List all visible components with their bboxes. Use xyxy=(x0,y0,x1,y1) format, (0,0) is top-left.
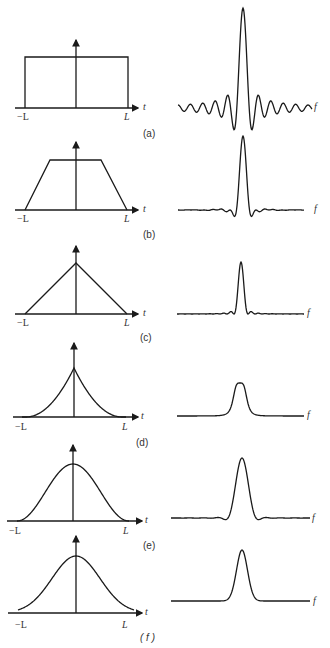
pos-L-label: L xyxy=(123,525,129,536)
panel-a-freq xyxy=(178,8,312,130)
panel-c-freq xyxy=(177,262,304,314)
neg-L-label: −L xyxy=(17,213,29,224)
neg-L-label: −L xyxy=(17,111,29,122)
neg-L-label: −L xyxy=(17,317,29,328)
f-axis-label: f xyxy=(307,409,310,420)
panel-label-b: (b) xyxy=(143,229,155,240)
neg-L-label: −L xyxy=(15,619,27,630)
panel-e-freq xyxy=(171,458,310,520)
t-axis-label: t xyxy=(145,514,148,525)
panel-f-freq xyxy=(171,550,310,601)
panel-c-time xyxy=(15,246,138,314)
t-axis-label: t xyxy=(141,410,144,421)
f-axis-label: f xyxy=(312,512,315,523)
f-axis-label: f xyxy=(314,203,317,214)
panel-f-time xyxy=(8,536,142,613)
panel-d-time xyxy=(13,343,138,417)
panel-e-time xyxy=(7,445,142,521)
panel-label-d: (d) xyxy=(136,437,148,448)
panel-label-c: (c) xyxy=(140,332,152,343)
f-axis-label: f xyxy=(307,307,310,318)
panel-d-freq xyxy=(177,383,304,416)
t-axis-label: t xyxy=(145,606,148,617)
pos-L-label: L xyxy=(124,213,130,224)
neg-L-label: −L xyxy=(9,525,21,536)
panel-a-time xyxy=(15,40,138,108)
pos-L-label: L xyxy=(122,619,128,630)
f-axis-label: f xyxy=(313,595,316,606)
pos-L-label: L xyxy=(124,111,130,122)
panel-b-time xyxy=(15,142,138,210)
panel-label-f: ( f ) xyxy=(140,632,155,643)
f-axis-label: f xyxy=(314,101,317,112)
panel-label-e: (e) xyxy=(143,540,155,551)
panel-label-a: (a) xyxy=(143,128,155,139)
pos-L-label: L xyxy=(124,317,130,328)
t-axis-label: t xyxy=(143,307,146,318)
figure-canvas xyxy=(0,0,330,648)
pos-L-label: L xyxy=(122,421,128,432)
t-axis-label: t xyxy=(143,101,146,112)
panel-b-freq xyxy=(178,136,304,216)
neg-L-label: −L xyxy=(15,421,27,432)
sinc-spectrum xyxy=(178,8,312,130)
t-axis-label: t xyxy=(143,203,146,214)
